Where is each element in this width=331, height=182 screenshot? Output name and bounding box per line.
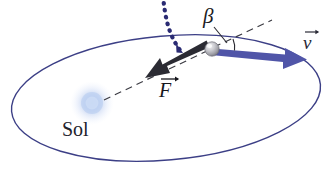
incoming-trajectory-dotted-curve [163, 0, 183, 53]
force-vector-label-glyph: F [159, 74, 171, 100]
sun-label: Sol [62, 119, 89, 139]
velocity-vector-label-glyph: v [303, 27, 311, 52]
force-vector-label: F [159, 74, 171, 100]
orbit-force-diagram: β Sol F v [0, 0, 331, 182]
velocity-vector [211, 48, 307, 69]
beta-angle-arc [233, 39, 235, 51]
beta-angle-label: β [203, 6, 213, 27]
orbiting-body [205, 42, 219, 56]
velocity-vector-label: v [303, 27, 311, 52]
